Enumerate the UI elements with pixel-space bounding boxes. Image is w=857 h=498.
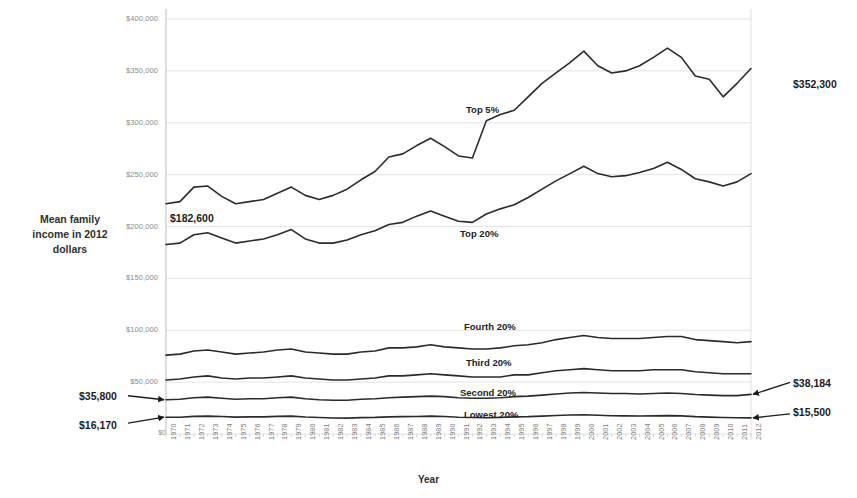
x-tick-label: 1976 (253, 423, 262, 440)
x-tick-label: 1991 (462, 423, 471, 440)
series-line-top-5 (166, 48, 751, 204)
value-annotation-start-lowest20: $16,170 (79, 419, 117, 431)
x-tick-label: 1989 (434, 423, 443, 440)
x-tick-label: 1985 (378, 423, 387, 440)
x-tick-label: 1988 (420, 423, 429, 440)
x-tick-label: 2002 (615, 423, 624, 440)
x-tick-label: 1980 (308, 423, 317, 440)
x-tick-label: 1979 (294, 423, 303, 440)
x-tick-label: 1982 (336, 423, 345, 440)
x-tick-label: 1993 (489, 423, 498, 440)
x-tick-label: 1997 (545, 423, 554, 440)
x-tick-label: 1981 (322, 423, 331, 440)
x-tick-label: 2003 (629, 423, 638, 440)
annotation-leader-end-lowest20 (753, 414, 790, 418)
x-tick-label: 1999 (573, 423, 582, 440)
x-tick-label: 1971 (183, 423, 192, 440)
series-label-lowest-20: Lowest 20% (464, 409, 518, 420)
x-tick-label: 1978 (280, 423, 289, 440)
x-tick-label: 1996 (531, 423, 540, 440)
series-label-fourth-20: Fourth 20% (464, 321, 516, 332)
x-tick-label: 1984 (364, 423, 373, 440)
value-annotation-end-top5: $352,300 (793, 78, 837, 90)
annotation-leader-end-second20 (753, 382, 790, 394)
x-tick-label: 1986 (392, 423, 401, 440)
x-tick-label: 1972 (197, 423, 206, 440)
x-tick-label: 2007 (684, 423, 693, 440)
x-tick-label: 2011 (740, 424, 749, 440)
series-line-lowest-20 (166, 415, 751, 418)
x-tick-label: 1977 (267, 423, 276, 440)
chart-page: Mean family income in 2012 dollars $0$50… (0, 0, 857, 498)
x-tick-label: 2008 (698, 423, 707, 440)
series-label-second-20: Second 20% (460, 387, 516, 398)
series-label-third-20: Third 20% (466, 357, 511, 368)
series-line-fourth-20 (166, 335, 751, 355)
x-tick-label: 2004 (643, 423, 652, 440)
x-tick-label: 1983 (350, 423, 359, 440)
series-line-second-20 (166, 393, 751, 401)
x-tick-label: 1992 (475, 423, 484, 440)
value-annotation-start-top20: $182,600 (170, 212, 214, 224)
x-tick-label: 2005 (657, 423, 666, 440)
x-tick-label: 2001 (601, 423, 610, 440)
series-label-top-5: Top 5% (466, 104, 499, 115)
x-tick-label: 2012 (754, 423, 763, 440)
x-tick-label: 1974 (225, 423, 234, 440)
annotation-leader-start-lowest20 (128, 417, 164, 423)
x-tick-label: 1998 (559, 423, 568, 440)
x-tick-label: 2009 (712, 423, 721, 440)
x-tick-label: 1970 (169, 423, 178, 440)
series-line-third-20 (166, 369, 751, 380)
annotation-leader-start-second20 (128, 396, 164, 400)
series-label-top-20: Top 20% (460, 228, 498, 239)
x-tick-label: 1995 (517, 423, 526, 440)
x-tick-label: 1973 (211, 423, 220, 440)
value-annotation-end-second20: $38,184 (793, 377, 831, 389)
value-annotation-start-second20: $35,800 (79, 390, 117, 402)
x-tick-label: 2010 (726, 423, 735, 440)
x-axis-title: Year (0, 474, 857, 485)
x-tick-label: 1994 (503, 423, 512, 440)
x-tick-label: 2000 (587, 423, 596, 440)
x-tick-label: 1987 (406, 423, 415, 440)
value-annotation-end-lowest20: $15,500 (793, 406, 831, 418)
x-tick-label: 2006 (670, 423, 679, 440)
x-tick-label: 1975 (239, 423, 248, 440)
x-tick-label: 1990 (448, 423, 457, 440)
